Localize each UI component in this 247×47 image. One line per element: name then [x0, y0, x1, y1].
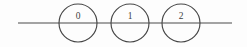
- node-label-1: 1: [128, 11, 133, 21]
- node-label-2: 2: [179, 11, 184, 21]
- diagram-canvas: 0 1 2: [0, 0, 247, 47]
- diagram-svg: 0 1 2: [0, 0, 247, 47]
- node-label-0: 0: [76, 11, 81, 21]
